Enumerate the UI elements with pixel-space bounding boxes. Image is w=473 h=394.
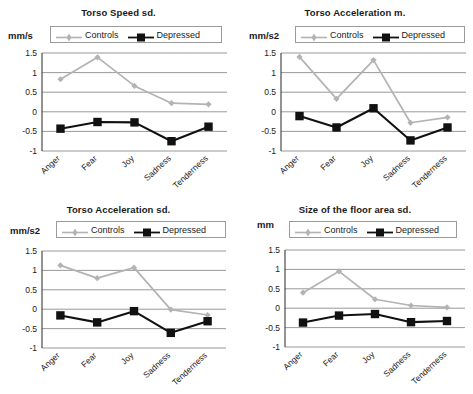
y-tick-label: -0.5 [22,324,37,334]
y-tick-label: -0.5 [265,323,280,333]
chart-panel-torso-acceleration-sd: Torso Acceleration sd. mm/s2 Controls De… [0,197,237,394]
x-tick-label: Tenderness [170,350,209,387]
depressed-data-point [299,318,307,326]
x-tick-label: Joy [119,350,136,367]
x-tick-label: Sadness [141,350,172,380]
y-tick-label: -1 [268,146,276,156]
x-tick-label: Anger [281,349,305,372]
y-tick-label: 1 [271,68,276,78]
x-tick-label: Sadness [381,349,412,379]
x-tick-label: Joy [360,349,377,366]
x-tick-label: Joy [119,153,136,170]
x-tick-label: Fear [318,153,338,172]
depressed-data-point [130,118,138,126]
depressed-series-line [300,108,448,140]
y-tick-label: 0 [32,107,37,117]
y-tick-label: 1 [32,265,37,275]
x-tick-label: Tenderness [409,349,448,386]
controls-data-point [408,302,414,308]
x-tick-label: Tenderness [410,153,449,190]
y-tick-label: 0.5 [264,87,276,97]
y-tick-label: 1.5 [268,245,280,255]
y-tick-label: 0.5 [268,284,280,294]
y-tick-label: -0.5 [22,126,37,136]
y-tick-label: 0 [32,304,37,314]
depressed-data-point [203,317,211,325]
x-tick-label: Anger [277,153,301,176]
y-tick-label: 1 [275,264,280,274]
x-tick-label: Joy [358,153,375,170]
depressed-data-point [93,318,101,326]
depressed-data-point [130,307,138,315]
y-tick-label: 0 [271,107,276,117]
depressed-data-point [371,310,379,318]
y-tick-label: 0.5 [25,285,37,295]
y-tick-label: -1 [29,343,37,353]
y-tick-label: 1.5 [25,48,37,58]
depressed-data-point [167,329,175,337]
depressed-data-point [204,122,212,130]
x-tick-label: Tenderness [171,153,210,190]
controls-series-line [61,57,209,104]
controls-data-point [444,114,450,120]
y-tick-label: -1 [272,342,280,352]
x-tick-label: Sadness [142,153,173,183]
plot-area: 1.510.50-0.5-1AngerFearJoySadnessTendern… [0,0,237,197]
controls-data-point [57,262,63,268]
controls-data-point [444,304,450,310]
y-tick-label: 0.5 [25,87,37,97]
controls-data-point [94,275,100,281]
x-tick-label: Fear [321,349,341,368]
chart-panel-torso-speed-sd: Torso Speed sd. mm/s Controls Depressed … [0,0,237,197]
y-tick-label: 1.5 [25,246,37,256]
depressed-data-point [93,118,101,126]
y-tick-label: -0.5 [261,126,276,136]
depressed-data-point [167,137,175,145]
controls-series-line [300,57,448,123]
controls-data-point [168,100,174,106]
depressed-data-point [56,124,64,132]
x-tick-label: Anger [38,350,62,373]
x-tick-label: Anger [38,153,62,176]
depressed-data-point [56,311,64,319]
depressed-data-point [295,112,303,120]
plot-area: 1.510.50-0.5-1AngerFearJoySadnessTendern… [0,197,237,394]
depressed-data-point [443,123,451,131]
x-tick-label: Sadness [381,153,412,183]
plot-area: 1.510.50-0.5-1AngerFearJoySadnessTendern… [237,197,473,394]
plot-area: 1.510.50-0.5-1AngerFearJoySadnessTendern… [237,0,473,197]
x-tick-label: Fear [79,350,99,369]
y-tick-label: 0 [275,303,280,313]
depressed-data-point [335,311,343,319]
controls-data-point [205,101,211,107]
depressed-data-point [407,318,415,326]
depressed-data-point [369,104,377,112]
y-tick-label: 1.5 [264,48,276,58]
chart-panel-torso-acceleration-m: Torso Acceleration m. mm/s2 Controls Dep… [237,0,473,197]
chart-panel-size-floor-area-sd: Size of the floor area sd. mm Controls D… [237,197,473,394]
y-tick-label: -1 [29,146,37,156]
depressed-data-point [443,317,451,325]
x-tick-label: Fear [79,153,99,172]
chart-grid: Torso Speed sd. mm/s Controls Depressed … [0,0,473,394]
depressed-data-point [332,123,340,131]
y-tick-label: 1 [32,68,37,78]
depressed-data-point [406,136,414,144]
